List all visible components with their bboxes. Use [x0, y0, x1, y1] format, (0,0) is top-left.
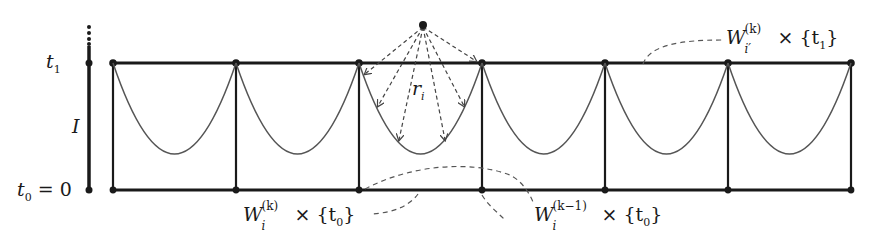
radius-arrow: [423, 27, 464, 106]
radius-label: ri: [412, 79, 425, 98]
axis-node-t1: [86, 60, 93, 67]
radius-arrow: [365, 27, 423, 74]
node-bottom: [725, 187, 732, 194]
node-bottom: [602, 187, 609, 194]
label-top-slice: W(k)i′× {t1}: [726, 25, 838, 53]
leader-bottom-left: [370, 194, 418, 214]
axis-continuation-dot: [87, 37, 91, 41]
parabola-curve: [482, 63, 605, 154]
axis-label-t1: t1: [46, 52, 61, 71]
time-axis: [86, 25, 93, 194]
axis-label-t0: t0 = 0: [17, 180, 72, 199]
label-bottom-slice-k: W(k)i× {t0}: [243, 202, 355, 230]
axis-continuation-dot: [87, 25, 91, 29]
node-bottom: [110, 187, 117, 194]
label-bottom-slice-k-minus-1: W(k−1)i× {t0}: [534, 202, 662, 230]
leader-bottom-right: [482, 195, 505, 220]
axis-label-interval: I: [72, 117, 80, 136]
node-bottom: [848, 187, 855, 194]
node-bottom: [233, 187, 240, 194]
radius-arrow: [423, 27, 476, 61]
node-bottom: [356, 187, 363, 194]
leader-lines: [365, 40, 723, 220]
node-bottom: [479, 187, 486, 194]
leader-bottom-arc: [365, 167, 533, 202]
radius-arrow: [423, 27, 445, 140]
leader-top-right: [643, 40, 723, 64]
grid: [109, 59, 855, 193]
axis-continuation-dot: [87, 31, 91, 35]
axis-node-t0: [86, 187, 93, 194]
parabola-curve: [236, 63, 359, 154]
apex-node: [419, 21, 427, 29]
parabola-curve: [728, 63, 851, 154]
parabola-curve: [605, 63, 728, 154]
parabola-curve: [113, 63, 236, 154]
axis-continuation-dot: [87, 42, 91, 46]
